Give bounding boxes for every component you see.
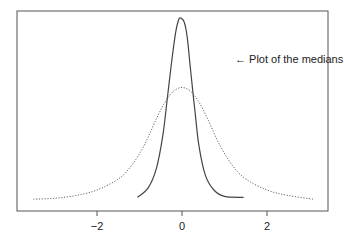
medians-annotation: ← Plot of the medians [235,53,344,65]
reference-density-curve [33,88,314,200]
x-tick-label: 0 [179,220,185,232]
x-axis: −202 [91,211,270,232]
chart-container: −202 ← Plot of the medians [0,0,344,240]
series-layer [33,18,314,199]
plot-frame [17,11,328,211]
x-tick-label: 2 [264,220,270,232]
x-tick-label: −2 [91,220,104,232]
density-plot: −202 ← Plot of the medians [0,0,344,240]
medians-curve [137,18,243,198]
